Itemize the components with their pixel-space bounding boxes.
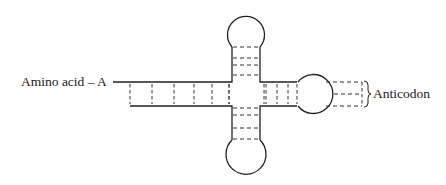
bottom-arm-base-pairs bbox=[233, 108, 259, 139]
top-loop bbox=[227, 16, 264, 47]
bottom-arm-right-strand bbox=[260, 106, 297, 140]
top-arm-right-strand bbox=[260, 47, 297, 82]
anticodon-label: Anticodon bbox=[373, 86, 430, 101]
bottom-arm bbox=[226, 106, 297, 174]
anticodon-brace bbox=[364, 81, 371, 107]
top-arm-base-pairs bbox=[233, 47, 259, 75]
top-arm bbox=[227, 16, 297, 82]
acceptor-stem bbox=[113, 47, 232, 140]
acceptor-base-pairs bbox=[130, 84, 229, 104]
bottom-loop bbox=[226, 140, 266, 174]
anticodon-arm-base-pairs bbox=[266, 84, 297, 104]
amino-acid-label: Amino acid – A bbox=[21, 74, 107, 89]
anticodon-loop bbox=[298, 75, 333, 114]
anticodon-arm bbox=[266, 75, 362, 114]
acceptor-top-strand bbox=[113, 47, 232, 82]
trna-diagram: Amino acid – A Anticodon bbox=[0, 0, 446, 185]
acceptor-bottom-strand bbox=[130, 106, 232, 140]
